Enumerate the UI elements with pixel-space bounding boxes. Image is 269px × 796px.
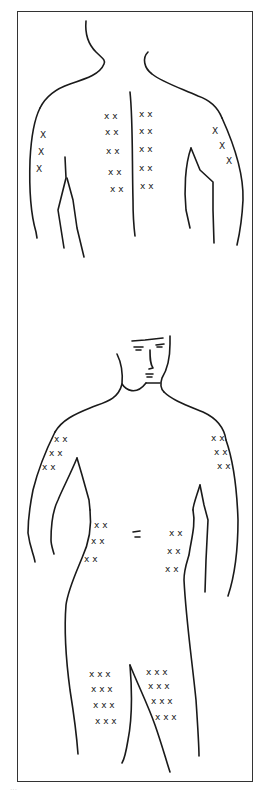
site-mark: x x [139, 144, 153, 154]
site-mark: x x [42, 462, 56, 472]
site-mark: x x [214, 447, 228, 457]
site-mark: X [219, 141, 225, 151]
site-mark: x x [169, 528, 183, 538]
site-mark: x x x [146, 667, 168, 677]
site-mark: x x [104, 111, 118, 121]
site-mark: x x x [95, 716, 117, 726]
site-mark: x x [106, 146, 120, 156]
site-mark: x x x [155, 712, 177, 722]
site-mark: x x [94, 520, 108, 530]
site-mark: x x [54, 434, 68, 444]
site-mark: X [212, 126, 218, 136]
figure-caption: ··· [10, 786, 17, 793]
site-mark: x x [167, 546, 181, 556]
navel [133, 531, 140, 537]
site-mark: x x [140, 181, 154, 191]
site-mark: x x [165, 564, 179, 574]
site-mark: x x [217, 461, 231, 471]
site-mark: X [226, 156, 232, 166]
front-view: x x x x x x x x x x x x x x x x x x x x … [28, 336, 238, 772]
injection-sites-figure: X X X x x x x x x x x x x x x x x x x x … [0, 0, 269, 796]
site-mark: x x [91, 536, 105, 546]
back-view: X X X x x x x x x x x x x x x x x x x x … [30, 21, 243, 257]
site-mark: x x [139, 109, 153, 119]
site-mark: X [40, 130, 46, 140]
site-mark: x x [84, 554, 98, 564]
site-mark: x x [105, 127, 119, 137]
site-mark: X [38, 147, 44, 157]
site-mark: x x [110, 184, 124, 194]
site-mark: x x x [148, 681, 170, 691]
site-mark: x x [108, 167, 122, 177]
site-mark: x x x [93, 700, 115, 710]
site-mark: x x [211, 433, 225, 443]
site-mark: x x x [89, 669, 111, 679]
site-mark: x x x [151, 696, 173, 706]
site-mark: x x [139, 126, 153, 136]
site-mark: X [36, 164, 42, 174]
site-mark: x x [139, 163, 153, 173]
site-mark: x x x [91, 684, 113, 694]
site-mark: x x [49, 448, 63, 458]
